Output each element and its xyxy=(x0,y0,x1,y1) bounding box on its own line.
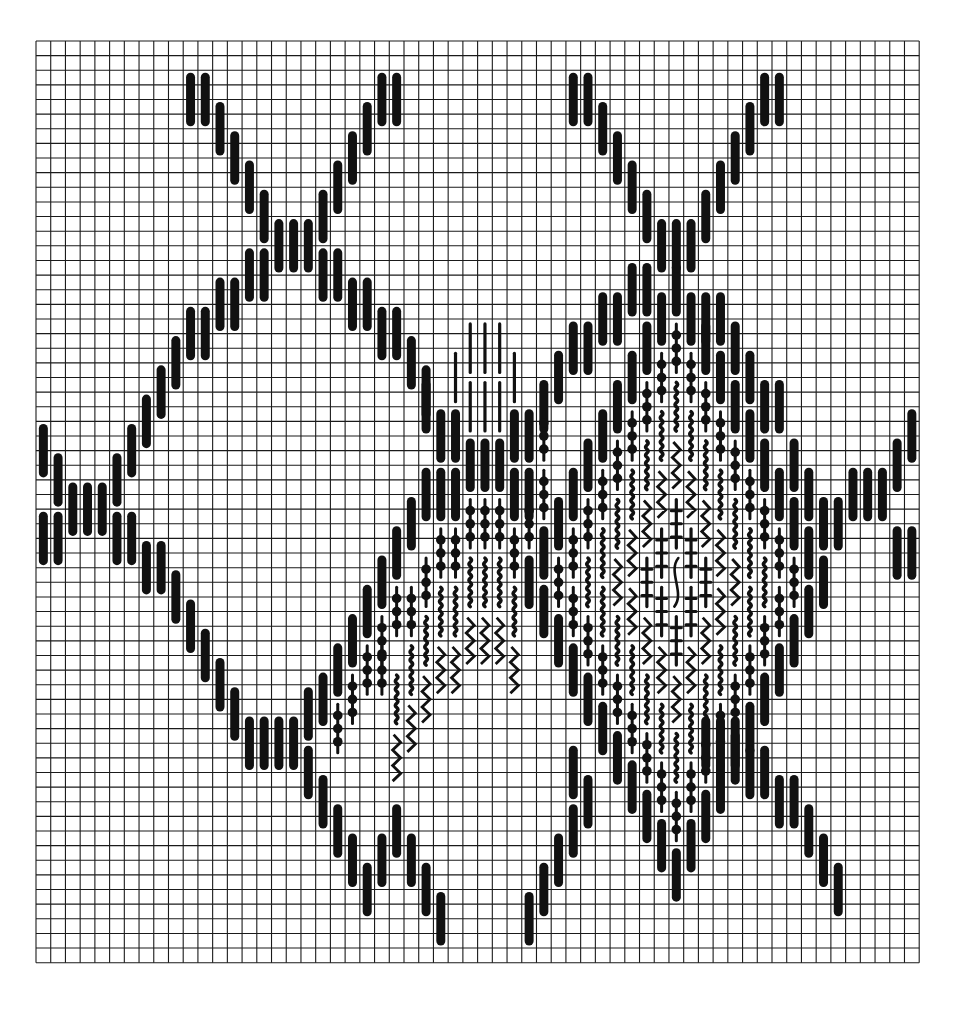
fine-wavy-stitch xyxy=(454,587,457,636)
fine-wavy-stitch xyxy=(601,587,604,636)
fine-wavy-stitch xyxy=(395,675,398,724)
fine-wavy-stitch xyxy=(719,646,722,695)
fine-wavy-stitch xyxy=(601,529,604,578)
fine-wavy-stitch xyxy=(484,558,487,607)
fine-wavy-stitch xyxy=(660,412,663,461)
fine-wavy-stitch xyxy=(675,734,678,783)
fine-wavy-stitch xyxy=(704,675,707,724)
grid-lines xyxy=(36,41,919,963)
fine-wavy-stitch xyxy=(763,558,766,607)
fine-wavy-stitch xyxy=(513,587,516,636)
fine-wavy-stitch xyxy=(690,412,693,461)
fine-wavy-stitch xyxy=(410,646,413,695)
fine-wavy-stitch xyxy=(675,382,678,431)
fine-wavy-stitch xyxy=(749,587,752,636)
fine-wavy-stitch xyxy=(425,617,428,666)
fine-wavy-stitch xyxy=(440,587,443,636)
fine-wavy-stitch xyxy=(469,558,472,607)
fine-wavy-stitch xyxy=(734,500,737,549)
fine-wavy-stitch xyxy=(616,500,619,549)
fine-wavy-stitch xyxy=(587,558,590,607)
fine-wavy-stitch xyxy=(498,558,501,607)
fine-wavy-stitch xyxy=(719,470,722,519)
fine-wavy-stitch xyxy=(616,617,619,666)
fine-wavy-stitch xyxy=(734,617,737,666)
fine-wavy-stitch xyxy=(631,470,634,519)
fine-wavy-stitch xyxy=(660,704,663,753)
fine-wavy-stitch xyxy=(749,529,752,578)
fine-wavy-stitch xyxy=(690,704,693,753)
fine-wavy-stitch xyxy=(646,675,649,724)
fine-wavy-stitch xyxy=(631,646,634,695)
stitch-chart xyxy=(0,0,954,1010)
fine-wavy-stitch xyxy=(646,441,649,490)
fine-wavy-stitch xyxy=(704,441,707,490)
